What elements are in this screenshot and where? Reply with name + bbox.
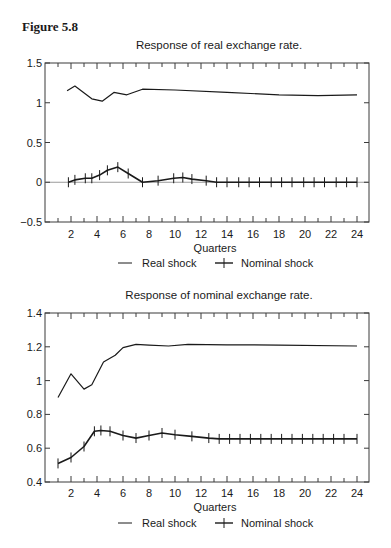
y-tick-label: 1 — [36, 375, 42, 387]
x-tick-label: 6 — [120, 228, 126, 240]
x-tick-label: 24 — [351, 228, 363, 240]
x-tick-label: 2 — [68, 487, 74, 499]
x-tick-label: 4 — [94, 487, 100, 499]
plot-frame — [45, 313, 369, 482]
y-tick-label: 0.8 — [27, 408, 42, 420]
x-tick-label: 10 — [169, 487, 181, 499]
chart-real-exchange-rate: Response of real exchange rate.246810121… — [20, 39, 369, 269]
x-tick-label: 18 — [273, 487, 285, 499]
series-nominal-shock — [58, 431, 357, 464]
legend-real-shock-label: Real shock — [142, 257, 197, 269]
x-tick-label: 24 — [351, 487, 363, 499]
y-tick-label: 0 — [36, 176, 42, 188]
y-tick-label: 0.4 — [27, 476, 42, 488]
x-tick-label: 20 — [299, 487, 311, 499]
x-tick-label: 12 — [195, 228, 207, 240]
y-tick-label: 1 — [36, 97, 42, 109]
plot-frame — [45, 63, 369, 222]
x-tick-label: 10 — [169, 228, 181, 240]
y-tick-label: 0.5 — [27, 137, 42, 149]
x-tick-label: 14 — [221, 487, 233, 499]
y-tick-label: 1.2 — [27, 341, 42, 353]
legend-nominal-shock-label: Nominal shock — [241, 517, 314, 529]
y-tick-label: −0.5 — [20, 216, 42, 228]
figure-charts: Response of real exchange rate.246810121… — [0, 0, 391, 548]
y-tick-label: 1.5 — [27, 57, 42, 69]
chart-title: Response of nominal exchange rate. — [125, 289, 312, 301]
y-tick-label: 0.6 — [27, 442, 42, 454]
x-tick-label: 16 — [247, 228, 259, 240]
x-tick-label: 22 — [325, 228, 337, 240]
x-tick-label: 4 — [94, 228, 100, 240]
x-tick-label: 20 — [299, 228, 311, 240]
x-tick-label: 12 — [195, 487, 207, 499]
x-tick-label: 2 — [68, 228, 74, 240]
y-tick-label: 1.4 — [27, 307, 42, 319]
x-tick-label: 6 — [120, 487, 126, 499]
series-real-shock — [67, 86, 357, 101]
chart-nominal-exchange-rate: Response of nominal exchange rate.246810… — [27, 289, 369, 529]
x-axis-label: Quarters — [194, 242, 237, 254]
chart-title: Response of real exchange rate. — [136, 39, 302, 51]
legend-nominal-shock-label: Nominal shock — [241, 257, 314, 269]
x-tick-label: 8 — [146, 487, 152, 499]
series-real-shock — [58, 344, 357, 397]
x-tick-label: 22 — [325, 487, 337, 499]
legend-real-shock-label: Real shock — [142, 517, 197, 529]
x-tick-label: 14 — [221, 228, 233, 240]
x-axis-label: Quarters — [194, 501, 237, 513]
x-tick-label: 18 — [273, 228, 285, 240]
x-tick-label: 8 — [146, 228, 152, 240]
x-tick-label: 16 — [247, 487, 259, 499]
